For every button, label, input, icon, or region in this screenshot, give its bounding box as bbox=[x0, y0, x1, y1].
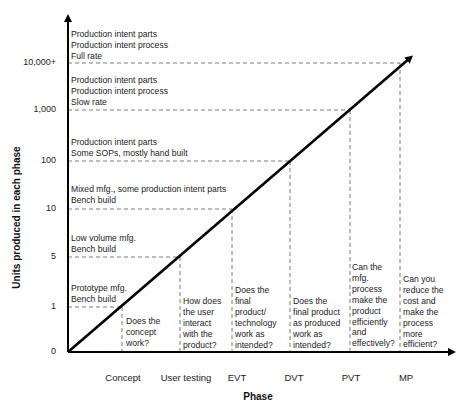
question-line: effectively? bbox=[352, 338, 395, 349]
annotation-100: Production intent parts Some SOPs, mostl… bbox=[71, 137, 188, 159]
question-line: efficiently bbox=[352, 317, 395, 328]
question-line: reduce the bbox=[403, 285, 444, 296]
question-line: efficient? bbox=[403, 339, 444, 350]
question-line: the user bbox=[183, 307, 221, 318]
annotation-line: Low volume mfg. bbox=[71, 233, 136, 244]
question-line: make the bbox=[403, 307, 444, 318]
question-line: and bbox=[352, 327, 395, 338]
question-line: Does the bbox=[235, 285, 277, 296]
question-line: with the bbox=[183, 329, 221, 340]
question-line: technology bbox=[235, 318, 277, 329]
question-line: as produced bbox=[293, 318, 340, 329]
annotation-line: Production intent process bbox=[71, 40, 168, 51]
question-dvt: Does the final product as produced work … bbox=[293, 296, 340, 351]
question-line: Does the bbox=[293, 296, 340, 307]
question-line: more bbox=[403, 329, 444, 340]
annotation-10000: Production intent parts Production inten… bbox=[71, 29, 168, 62]
question-line: Can the bbox=[352, 262, 395, 273]
y-tick-100: 100 bbox=[16, 155, 56, 165]
question-line: product/ bbox=[235, 307, 277, 318]
question-line: How does bbox=[183, 296, 221, 307]
question-line: product bbox=[352, 306, 395, 317]
annotation-1000: Production intent parts Production inten… bbox=[71, 75, 168, 108]
question-line: make the bbox=[352, 295, 395, 306]
question-line: Can you bbox=[403, 274, 444, 285]
question-line: cost and bbox=[403, 296, 444, 307]
question-line: concept bbox=[126, 327, 160, 338]
question-line: final product bbox=[293, 307, 340, 318]
y-tick-5: 5 bbox=[16, 251, 56, 261]
y-tick-10: 10 bbox=[16, 203, 56, 213]
x-axis-label: Phase bbox=[218, 391, 298, 402]
y-tick-0: 0 bbox=[16, 346, 56, 356]
y-tick-1000: 1,000 bbox=[16, 104, 56, 114]
question-user-testing: How does the user interact with the prod… bbox=[183, 296, 221, 351]
annotation-line: Some SOPs, mostly hand built bbox=[71, 148, 188, 159]
annotation-line: Production intent process bbox=[71, 86, 168, 97]
annotation-line: Production intent parts bbox=[71, 137, 188, 148]
annotation-line: Slow rate bbox=[71, 97, 168, 108]
annotation-line: Full rate bbox=[71, 51, 168, 62]
question-line: process bbox=[403, 318, 444, 329]
question-line: mfg. bbox=[352, 273, 395, 284]
y-tick-10000: 10,000+ bbox=[16, 57, 56, 67]
question-line: final bbox=[235, 296, 277, 307]
annotation-1: Prototype mfg. Bench build bbox=[71, 283, 127, 305]
question-evt: Does the final product/ technology work … bbox=[235, 285, 277, 350]
question-line: process bbox=[352, 284, 395, 295]
annotation-line: Mixed mfg., some production intent parts bbox=[71, 184, 226, 195]
question-line: work? bbox=[126, 338, 160, 349]
question-mp: Can you reduce the cost and make the pro… bbox=[403, 274, 444, 350]
question-line: Does the bbox=[126, 316, 160, 327]
annotation-line: Bench build bbox=[71, 294, 127, 305]
annotation-line: Production intent parts bbox=[71, 75, 168, 86]
question-line: intended? bbox=[235, 340, 277, 351]
annotation-line: Bench build bbox=[71, 195, 226, 206]
annotation-line: Prototype mfg. bbox=[71, 283, 127, 294]
annotation-line: Production intent parts bbox=[71, 29, 168, 40]
question-line: work as bbox=[293, 329, 340, 340]
question-concept: Does the concept work? bbox=[126, 316, 160, 349]
y-tick-1: 1 bbox=[16, 301, 56, 311]
question-line: work as bbox=[235, 329, 277, 340]
question-line: intended? bbox=[293, 340, 340, 351]
question-pvt: Can the mfg. process make the product ef… bbox=[352, 262, 395, 349]
annotation-line: Bench build bbox=[71, 244, 136, 255]
question-line: product? bbox=[183, 340, 221, 351]
x-tick-mp: MP bbox=[366, 372, 446, 383]
annotation-5: Low volume mfg. Bench build bbox=[71, 233, 136, 255]
question-line: interact bbox=[183, 318, 221, 329]
annotation-10: Mixed mfg., some production intent parts… bbox=[71, 184, 226, 206]
